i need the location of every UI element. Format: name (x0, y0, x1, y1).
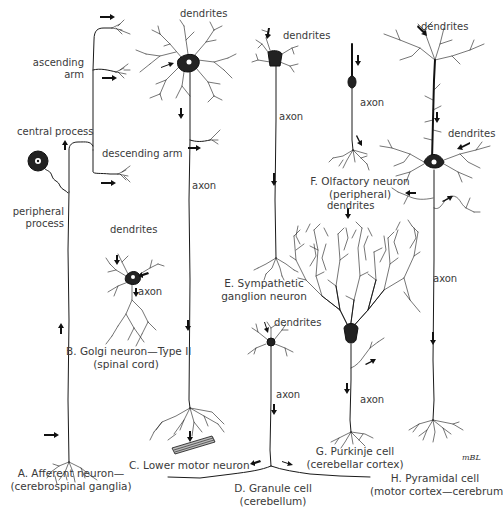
label-granule-dendrites: dendrites (274, 317, 321, 329)
label-golgi-axon: axon (138, 286, 162, 298)
label-olfactory-axon: axon (360, 97, 384, 109)
caption-olfactory-line1: F. Olfactory neuron (300, 175, 420, 188)
label-sympathetic-axon: axon (279, 111, 303, 123)
label-purkinje-axon: axon (360, 394, 384, 406)
pyramidal-cell-drawing: mBL (380, 22, 490, 462)
caption-granule-line2: (cerebellum) (228, 495, 318, 508)
golgi-neuron-drawing (106, 254, 164, 346)
label-descending-arm: descending arm (102, 148, 183, 160)
label-ascending-arm-line1: ascending (30, 57, 84, 69)
caption-lower-motor-neuron: C. Lower motor neuron (129, 459, 250, 472)
artist-signature: mBL (462, 453, 481, 462)
neuron-types-diagram: mBL ascending arm central process (0, 0, 503, 509)
caption-sympathetic-line1: E. Sympathetic (210, 277, 318, 290)
caption-pyramidal-cell: H. Pyramidal cell (motor cortex—cerebrum… (370, 472, 500, 498)
caption-granule-cell: D. Granule cell (cerebellum) (228, 482, 318, 508)
caption-afferent-line2: (cerebrospinal ganglia) (6, 480, 136, 493)
caption-golgi-neuron: B. Golgi neuron—Type II (spinal cord) (66, 345, 186, 371)
label-ascending-arm: ascending arm (30, 57, 84, 81)
label-purkinje-dendrites: dendrites (327, 200, 374, 212)
label-motor-axon: axon (192, 180, 216, 192)
label-motor-dendrites: dendrites (180, 8, 227, 20)
caption-sympathetic-neuron: E. Sympathetic ganglion neuron (210, 277, 318, 303)
caption-purkinje-line1: G. Purkinje cell (300, 445, 410, 458)
caption-pyramidal-line1: H. Pyramidal cell (370, 472, 500, 485)
label-golgi-dendrites: dendrites (110, 224, 157, 236)
label-peripheral-process-line1: peripheral (10, 206, 64, 218)
caption-purkinje-cell: G. Purkinje cell (cerebellar cortex) (300, 445, 410, 471)
label-pyramidal-dendrites-apical: dendrites (421, 21, 468, 33)
label-pyramidal-dendrites-basal: dendrites (448, 128, 495, 140)
label-peripheral-process: peripheral process (10, 206, 64, 230)
caption-golgi-line1: B. Golgi neuron—Type II (66, 345, 186, 358)
label-sympathetic-dendrites: dendrites (283, 30, 330, 42)
sympathetic-neuron-drawing (252, 28, 298, 280)
caption-afferent-neuron: A. Afferent neuron— (cerebrospinal gangl… (6, 467, 136, 493)
caption-purkinje-line2: (cerebellar cortex) (300, 458, 410, 471)
caption-afferent-line1: A. Afferent neuron— (6, 467, 136, 480)
caption-golgi-line2: (spinal cord) (66, 358, 186, 371)
label-pyramidal-axon: axon (433, 273, 457, 285)
caption-sympathetic-line2: ganglion neuron (210, 290, 318, 303)
lower-motor-neuron-drawing (136, 20, 236, 454)
label-central-process: central process (17, 126, 94, 138)
caption-granule-line1: D. Granule cell (228, 482, 318, 495)
caption-pyramidal-line2: (motor cortex—cerebrum) (370, 485, 500, 498)
caption-olfactory-neuron: F. Olfactory neuron (peripheral) (300, 175, 420, 201)
label-peripheral-process-line2: process (10, 218, 64, 230)
label-ascending-arm-line2: arm (30, 69, 84, 81)
label-granule-axon: axon (276, 389, 300, 401)
afferent-neuron-drawing (28, 14, 130, 484)
